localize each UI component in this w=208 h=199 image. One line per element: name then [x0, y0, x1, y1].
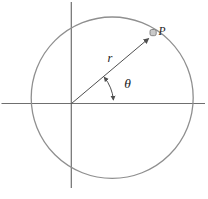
- diagram-canvas: r θ P: [0, 0, 208, 199]
- radius-vector: [72, 39, 149, 104]
- point-dot: [150, 30, 156, 36]
- radius-label: r: [108, 51, 113, 65]
- circular-motion-figure: r θ P: [0, 0, 208, 199]
- circle-path: [31, 17, 193, 178]
- point-label: P: [158, 25, 166, 37]
- angle-label: θ: [124, 76, 131, 91]
- angle-arc: [104, 77, 113, 100]
